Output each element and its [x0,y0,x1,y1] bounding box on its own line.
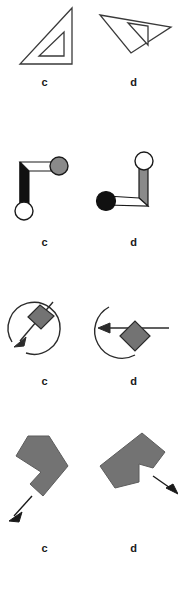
outer-triangle-shape [100,15,171,53]
figure-cell-3c: c [0,285,89,405]
figure-row-1: c d [0,0,178,100]
figure-label-1c: c [0,76,89,88]
triangle-outline-rotated [89,0,178,72]
elbow-arm-c-svg [0,148,89,226]
elbow-arm-c [0,148,89,226]
gray-notched-block [100,433,165,488]
arrow-shaft [14,496,32,516]
circle-arrow-diamond-d-svg [89,285,178,365]
figure-row-2: c d [0,148,178,268]
gray-notched-block [16,436,68,496]
figure-cell-1c: c [0,0,89,100]
circle-arrow-diamond-c-svg [0,285,89,365]
figure-cell-4d: d [89,420,178,600]
gray-diamond [120,321,150,351]
figure-sheet: c d [0,0,178,601]
notched-block-d [89,420,178,530]
figure-cell-4c: c [0,420,89,600]
circle-arrow-diamond-c [0,285,89,365]
figure-cell-2d: d [89,148,178,268]
arrow-head [14,337,26,347]
gray-ball-right [50,157,68,175]
notched-block-d-svg [89,420,178,530]
triangle-outline-upright [0,0,89,72]
figure-label-3c: c [0,375,89,387]
white-ball-bottom [15,202,33,220]
black-ball-left [97,192,116,211]
figure-row-3: c d [0,285,178,405]
white-ball-top [135,152,153,170]
figure-cell-2c: c [0,148,89,268]
figure-row-4: c d [0,420,178,600]
figure-cell-3d: d [89,285,178,405]
triangle-rotated-svg [89,0,178,72]
triangle-upright-svg [0,0,89,72]
figure-label-4c: c [0,542,89,554]
notched-block-c [0,420,89,530]
figure-label-4d: d [89,542,178,554]
figure-cell-1d: d [89,0,178,100]
arrow-head [166,484,178,494]
figure-label-2c: c [0,236,89,248]
figure-label-2d: d [89,236,178,248]
circle-arrow-diamond-d [89,285,178,365]
figure-label-3d: d [89,375,178,387]
elbow-arm-d-svg [89,148,178,226]
figure-label-1d: d [89,76,178,88]
notched-block-c-svg [0,420,89,530]
arrow-head [98,323,110,333]
elbow-arm-d [89,148,178,226]
